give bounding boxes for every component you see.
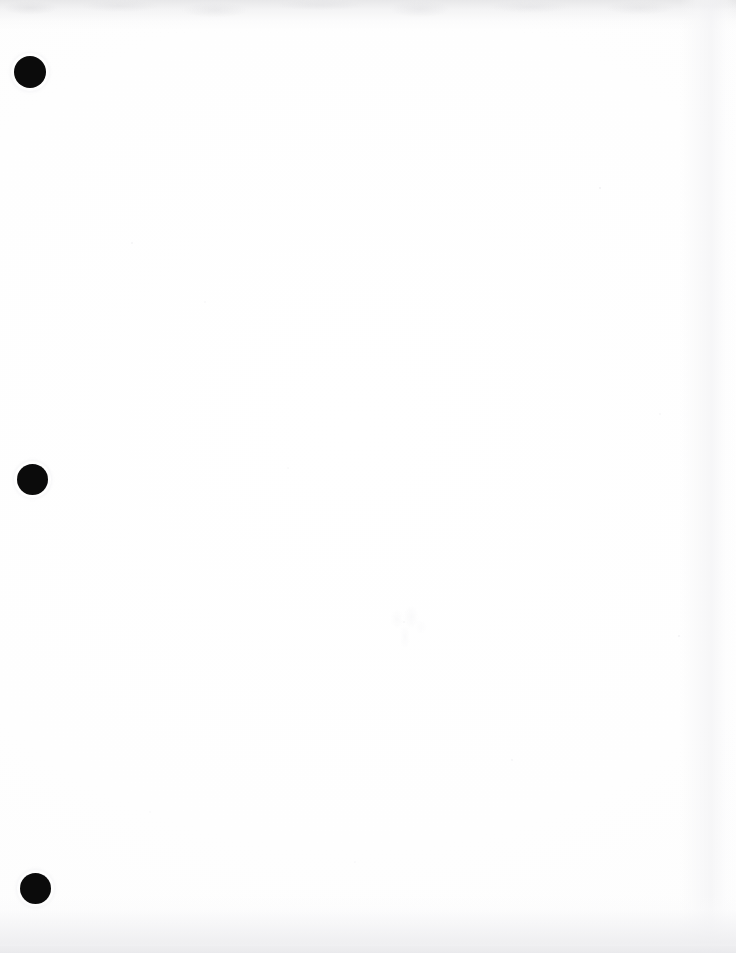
page-body-text <box>90 120 650 820</box>
bottom-edge-line <box>0 946 736 953</box>
bottom-hole-punch <box>20 873 51 904</box>
scanned-page <box>0 0 736 953</box>
middle-hole-punch <box>17 464 48 495</box>
top-hole-punch <box>14 56 46 88</box>
bottom-edge-gray-wash <box>0 895 736 953</box>
